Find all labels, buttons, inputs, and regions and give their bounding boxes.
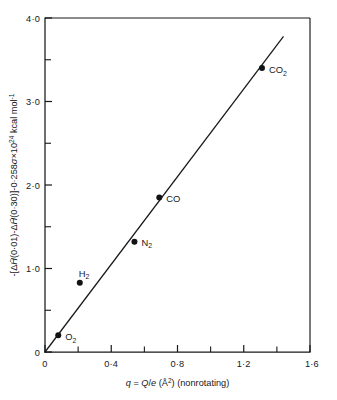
y-title-arg1: (0·01)-Δ — [9, 224, 19, 258]
y-title-times: ×10 — [9, 143, 19, 159]
y-title-lead: -[Δ — [9, 265, 19, 277]
x-title-Q: Q — [141, 378, 148, 388]
data-point-labels: O2 H2 N2 CO CO2 — [65, 64, 287, 344]
data-label-h2-sub: 2 — [86, 273, 90, 280]
data-point-o2[interactable] — [55, 332, 61, 338]
data-label-h2: H2 — [79, 268, 90, 281]
data-label-co2-sub: 2 — [283, 70, 287, 77]
data-label-co2: CO2 — [269, 64, 287, 77]
figure-container: 0 1·0 2·0 3·0 4·0 0 0·4 0·8 1·2 1·6 O2 H — [0, 0, 337, 400]
data-point-h2[interactable] — [77, 280, 83, 286]
y-axis-major-ticks — [45, 18, 52, 352]
x-axis-tick-labels: 0 0·4 0·8 1·2 1·6 — [42, 359, 319, 369]
x-tick-label-2: 0·8 — [171, 359, 185, 369]
x-tick-label-1: 0·4 — [104, 359, 118, 369]
data-label-o2-sub: 2 — [73, 337, 77, 344]
x-title-paren-close: ) (nonrotating) — [172, 378, 230, 388]
data-label-co: CO — [166, 193, 180, 204]
data-label-h2-main: H — [79, 268, 86, 279]
y-tick-label-2: 2·0 — [26, 181, 40, 191]
x-title-paren-open: (Å — [156, 378, 169, 388]
y-tick-label-0: 0 — [35, 348, 40, 358]
data-label-o2-main: O — [65, 331, 72, 342]
data-label-n2-main: N — [141, 237, 148, 248]
data-point-co2[interactable] — [259, 65, 265, 71]
y-tick-label-1: 1·0 — [26, 264, 40, 274]
y-axis-tick-labels: 0 1·0 2·0 3·0 4·0 — [26, 14, 40, 358]
x-title-eq: = — [131, 378, 141, 388]
y-tick-label-3: 3·0 — [26, 97, 40, 107]
data-label-co2-main: CO — [269, 64, 283, 75]
y-tick-label-4: 4·0 — [26, 14, 40, 24]
data-label-n2: N2 — [141, 237, 152, 250]
fit-line — [45, 36, 284, 352]
data-label-co-main: CO — [166, 193, 180, 204]
y-title-unit: kcal mol — [9, 99, 19, 135]
y-title-arg2: (0·30)]-0·258 — [9, 164, 19, 218]
data-point-co[interactable] — [156, 195, 162, 201]
x-tick-label-3: 1·2 — [237, 359, 251, 369]
y-title-unit-exp: -1 — [8, 93, 15, 99]
data-point-n2[interactable] — [131, 239, 137, 245]
data-label-o2: O2 — [65, 331, 76, 344]
x-tick-label-0: 0 — [42, 359, 47, 369]
x-axis-major-ticks — [45, 345, 310, 352]
data-label-n2-sub: 2 — [148, 242, 152, 249]
x-tick-label-4: 1·6 — [305, 359, 319, 369]
scatter-plot: 0 1·0 2·0 3·0 4·0 0 0·4 0·8 1·2 1·6 O2 H — [0, 0, 337, 400]
y-axis-title: -[ΔH̄(0·01)-ΔH̄(0·30)]-0·258σ×1024 kcal … — [8, 93, 19, 276]
x-axis-title: q = Q/e (Å2) (nonrotating) — [126, 377, 230, 388]
